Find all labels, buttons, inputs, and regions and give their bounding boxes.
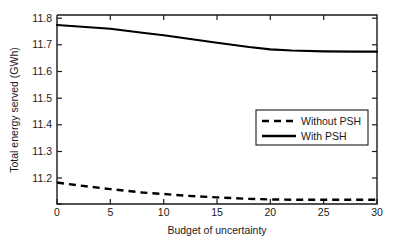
y-tick-label-2: 11.4 [32,118,52,130]
x-tick-label-3: 15 [211,206,223,218]
y-tick-label-3: 11.5 [32,92,52,104]
x-tick-label-6: 30 [371,206,383,218]
y-tick-label-4: 11.6 [32,65,52,77]
legend-label-with-psh: With PSH [301,130,347,142]
chart-figure: 11.2 11.3 11.4 11.5 11.6 11.7 11.8 0 5 1… [0,0,396,247]
y-axis-title: Total energy served (GWh) [8,47,20,172]
y-tick-label-1: 11.3 [32,145,52,157]
y-tick-label-0: 11.2 [32,172,52,184]
x-tick-label-4: 20 [264,206,276,218]
y-tick-label-6: 11.8 [32,12,52,24]
legend-label-without-psh: Without PSH [301,115,361,127]
x-tick-label-1: 5 [107,206,113,218]
x-tick-label-5: 25 [318,206,330,218]
x-axis-title: Budget of uncertainty [167,224,267,236]
y-tick-label-5: 11.7 [32,38,52,50]
x-tick-label-2: 10 [158,206,170,218]
line-chart: 11.2 11.3 11.4 11.5 11.6 11.7 11.8 0 5 1… [0,0,396,247]
x-tick-label-0: 0 [54,206,60,218]
chart-legend: Without PSH With PSH [256,110,368,145]
